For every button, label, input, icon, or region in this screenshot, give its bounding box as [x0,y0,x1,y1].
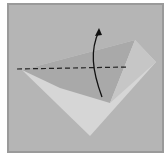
arrow-head-icon [95,28,102,36]
origami-diagram [0,0,166,155]
